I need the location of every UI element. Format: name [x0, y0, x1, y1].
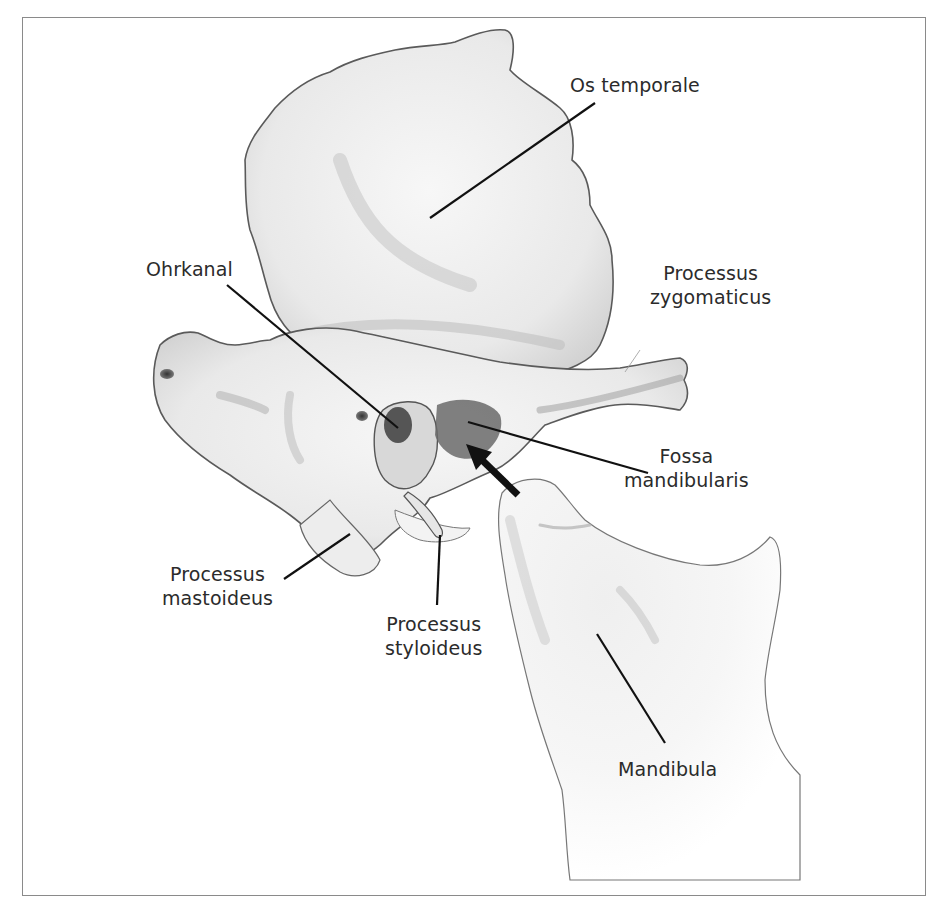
- label-ohrkanal: Ohrkanal: [146, 257, 233, 281]
- label-processus-mastoideus: Processus mastoideus: [162, 562, 273, 610]
- label-processus-styloideus: Processus styloideus: [385, 612, 482, 660]
- anatomy-illustration: [0, 0, 938, 919]
- label-mandibula: Mandibula: [618, 757, 717, 781]
- label-fossa-mandibularis: Fossa mandibularis: [624, 444, 749, 492]
- mandibula-shape: [499, 479, 800, 880]
- label-os-temporale: Os temporale: [570, 73, 700, 97]
- label-processus-zygomaticus: Processus zygomaticus: [650, 261, 771, 309]
- leader-processus-styloideus: [437, 535, 440, 605]
